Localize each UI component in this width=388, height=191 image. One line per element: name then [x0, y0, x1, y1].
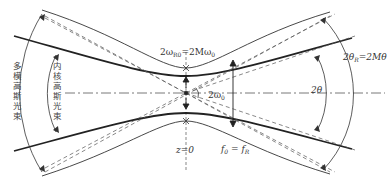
- label-focus: f0 = fR: [220, 144, 250, 155]
- divergence-arc-outer: [323, 18, 353, 170]
- label-fundamental-waist: 2ω0: [208, 90, 225, 101]
- label-z-origin: z=0: [175, 145, 194, 155]
- label-embedded-waist: 2ωR0=2Mω0: [160, 47, 215, 58]
- label-inner-beam: 内核高斯光束: [50, 62, 62, 122]
- label-outer-beam: 多模高斯光束: [10, 62, 22, 122]
- label-divergence-multimode: 2θR=2Mθ: [342, 52, 387, 63]
- label-divergence-fundamental: 2θ: [310, 85, 323, 95]
